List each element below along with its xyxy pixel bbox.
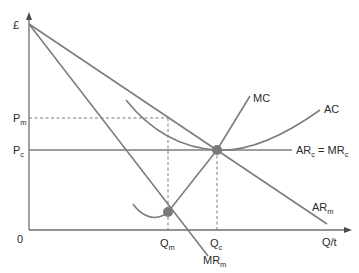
arm-line <box>29 24 327 224</box>
mrm-label: MRm <box>203 254 226 269</box>
monopoly-diagram: £ 0 Q/t Pm Qm Qc Pc ARc = MRc ARm MRm AC… <box>0 0 359 273</box>
x-axis-arrow-icon <box>344 227 352 233</box>
origin-label: 0 <box>17 233 23 245</box>
qc-label: Qc <box>210 237 223 252</box>
mc-label: MC <box>253 92 270 104</box>
mc-curve <box>133 96 250 217</box>
y-axis-label: £ <box>13 19 19 31</box>
competitive-equilibrium-point <box>212 145 222 155</box>
y-axis-arrow-icon <box>26 12 32 20</box>
mrm-line <box>29 24 208 256</box>
pm-label: Pm <box>13 112 27 127</box>
ac-curve <box>126 100 320 150</box>
monopoly-equilibrium-point <box>163 207 173 217</box>
arc-mrc-label: ARc = MRc <box>296 144 349 159</box>
qm-label: Qm <box>160 237 175 252</box>
axes <box>26 12 352 233</box>
arm-label: ARm <box>312 201 334 216</box>
ac-label: AC <box>324 103 339 115</box>
x-axis-label: Q/t <box>322 236 337 248</box>
pc-label: Pc <box>13 144 24 159</box>
